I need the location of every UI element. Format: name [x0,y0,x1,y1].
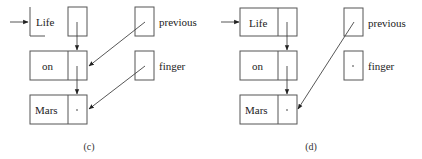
node-label-mars: Mars [35,104,58,116]
finger-arrow [89,66,145,109]
linked-list-diagram: Life on Mars previous finger (c) Life [0,0,422,159]
caption-c: (c) [83,141,94,153]
pointer-label-finger: finger [159,60,186,72]
node-label-life: Life [249,17,267,29]
node-label-on: on [42,60,54,72]
node-label-mars: Mars [245,104,268,116]
pointer-label-previous: previous [159,16,197,28]
node-label-life: Life [36,16,54,28]
previous-pointer-box [135,7,154,36]
previous-arrow [298,22,354,109]
finger-null-marker [352,65,354,67]
null-marker [286,109,288,111]
panel-c: Life on Mars previous finger (c) [10,7,197,153]
pointer-label-finger: finger [368,60,395,72]
caption-d: (d) [305,141,317,153]
null-marker [76,109,78,111]
previous-arrow [89,22,145,66]
on-node [30,51,87,80]
finger-pointer-box [135,51,154,80]
node-label-on: on [252,60,264,72]
on-node [240,51,297,80]
life-pointer-cell [68,7,87,36]
pointer-label-previous: previous [368,17,406,29]
panel-d: Life on Mars previous finger (d) [221,8,406,153]
